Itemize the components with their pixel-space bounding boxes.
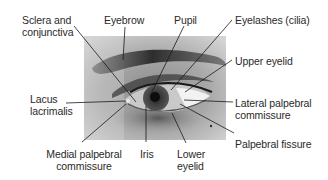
label-eyelashes: Eyelashes (cilia) <box>235 14 310 26</box>
label-line: Lateral palpebral <box>235 97 312 109</box>
label-line: conjunctiva <box>22 26 73 38</box>
label-line: Sclera and <box>22 14 73 26</box>
label-pupil: Pupil <box>174 14 197 26</box>
label-iris: Iris <box>140 148 154 160</box>
label-line: Iris <box>140 148 154 160</box>
label-eyebrow: Eyebrow <box>104 14 144 26</box>
label-line: Palpebral fissure <box>235 138 312 150</box>
label-line: Lower <box>177 148 205 160</box>
label-line: Lacus <box>30 93 73 105</box>
label-line: Medial palpebral <box>36 148 132 160</box>
label-line: Upper eyelid <box>235 55 293 67</box>
label-line: commissure <box>36 160 132 172</box>
label-lateral-palpebral-commissure: Lateral palpebral commissure <box>235 97 312 121</box>
label-lower-eyelid: Lower eyelid <box>177 148 205 172</box>
label-lacus-lacrimalis: Lacus lacrimalis <box>30 93 73 117</box>
label-upper-eyelid: Upper eyelid <box>235 55 293 67</box>
label-medial-palpebral-commissure: Medial palpebral commissure <box>36 148 132 172</box>
label-line: Pupil <box>174 14 197 26</box>
eye-anatomy-diagram: Sclera and conjunctiva Eyebrow Pupil Eye… <box>0 0 328 180</box>
label-line: Eyelashes (cilia) <box>235 14 310 26</box>
label-line: lacrimalis <box>30 105 73 117</box>
label-line: commissure <box>235 109 312 121</box>
label-palpebral-fissure: Palpebral fissure <box>235 138 312 150</box>
label-line: Eyebrow <box>104 14 144 26</box>
label-sclera-conjunctiva: Sclera and conjunctiva <box>22 14 73 38</box>
label-line: eyelid <box>177 160 205 172</box>
